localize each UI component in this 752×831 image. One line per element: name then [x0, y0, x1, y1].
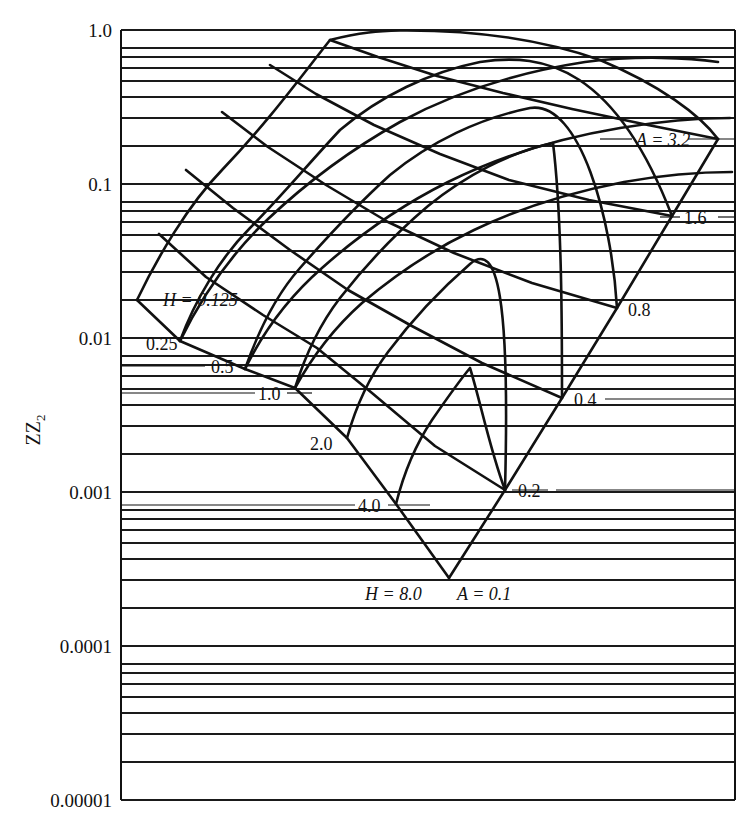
label-H-0.25: 0.25 — [146, 334, 178, 354]
label-H-1.0: 1.0 — [258, 384, 281, 404]
label-A-0.1: A = 0.1 — [456, 584, 511, 604]
label-A-3.2: A = 3.2 — [635, 130, 690, 150]
log-nomograph-chart: 1.0 0.1 0.01 0.001 0.0001 0.00001 ZZ2 — [0, 0, 752, 831]
y-tick-label: 0.001 — [69, 482, 112, 503]
y-tick-label: 0.00001 — [50, 790, 112, 811]
label-A-0.4: 0.4 — [574, 390, 597, 410]
y-tick-label: 0.01 — [79, 328, 112, 349]
y-tick-label: 0.1 — [88, 174, 112, 195]
label-H-4.0: 4.0 — [358, 496, 381, 516]
label-H-8.0: H = 8.0 — [364, 584, 422, 604]
y-axis-title-sub: 2 — [33, 415, 48, 422]
label-H-0.5: 0.5 — [211, 357, 234, 377]
label-A-0.2: 0.2 — [518, 481, 541, 501]
figure-root: 1.0 0.1 0.01 0.001 0.0001 0.00001 ZZ2 — [0, 0, 752, 831]
label-A-0.8: 0.8 — [628, 300, 651, 320]
label-H-2.0: 2.0 — [310, 434, 333, 454]
label-A-1.6: 1.6 — [684, 208, 707, 228]
y-axis-title-main: ZZ — [22, 421, 44, 445]
y-tick-label: 1.0 — [88, 20, 112, 41]
label-H-0.125: H = 0.125 — [162, 290, 238, 310]
y-tick-label: 0.0001 — [60, 636, 112, 657]
